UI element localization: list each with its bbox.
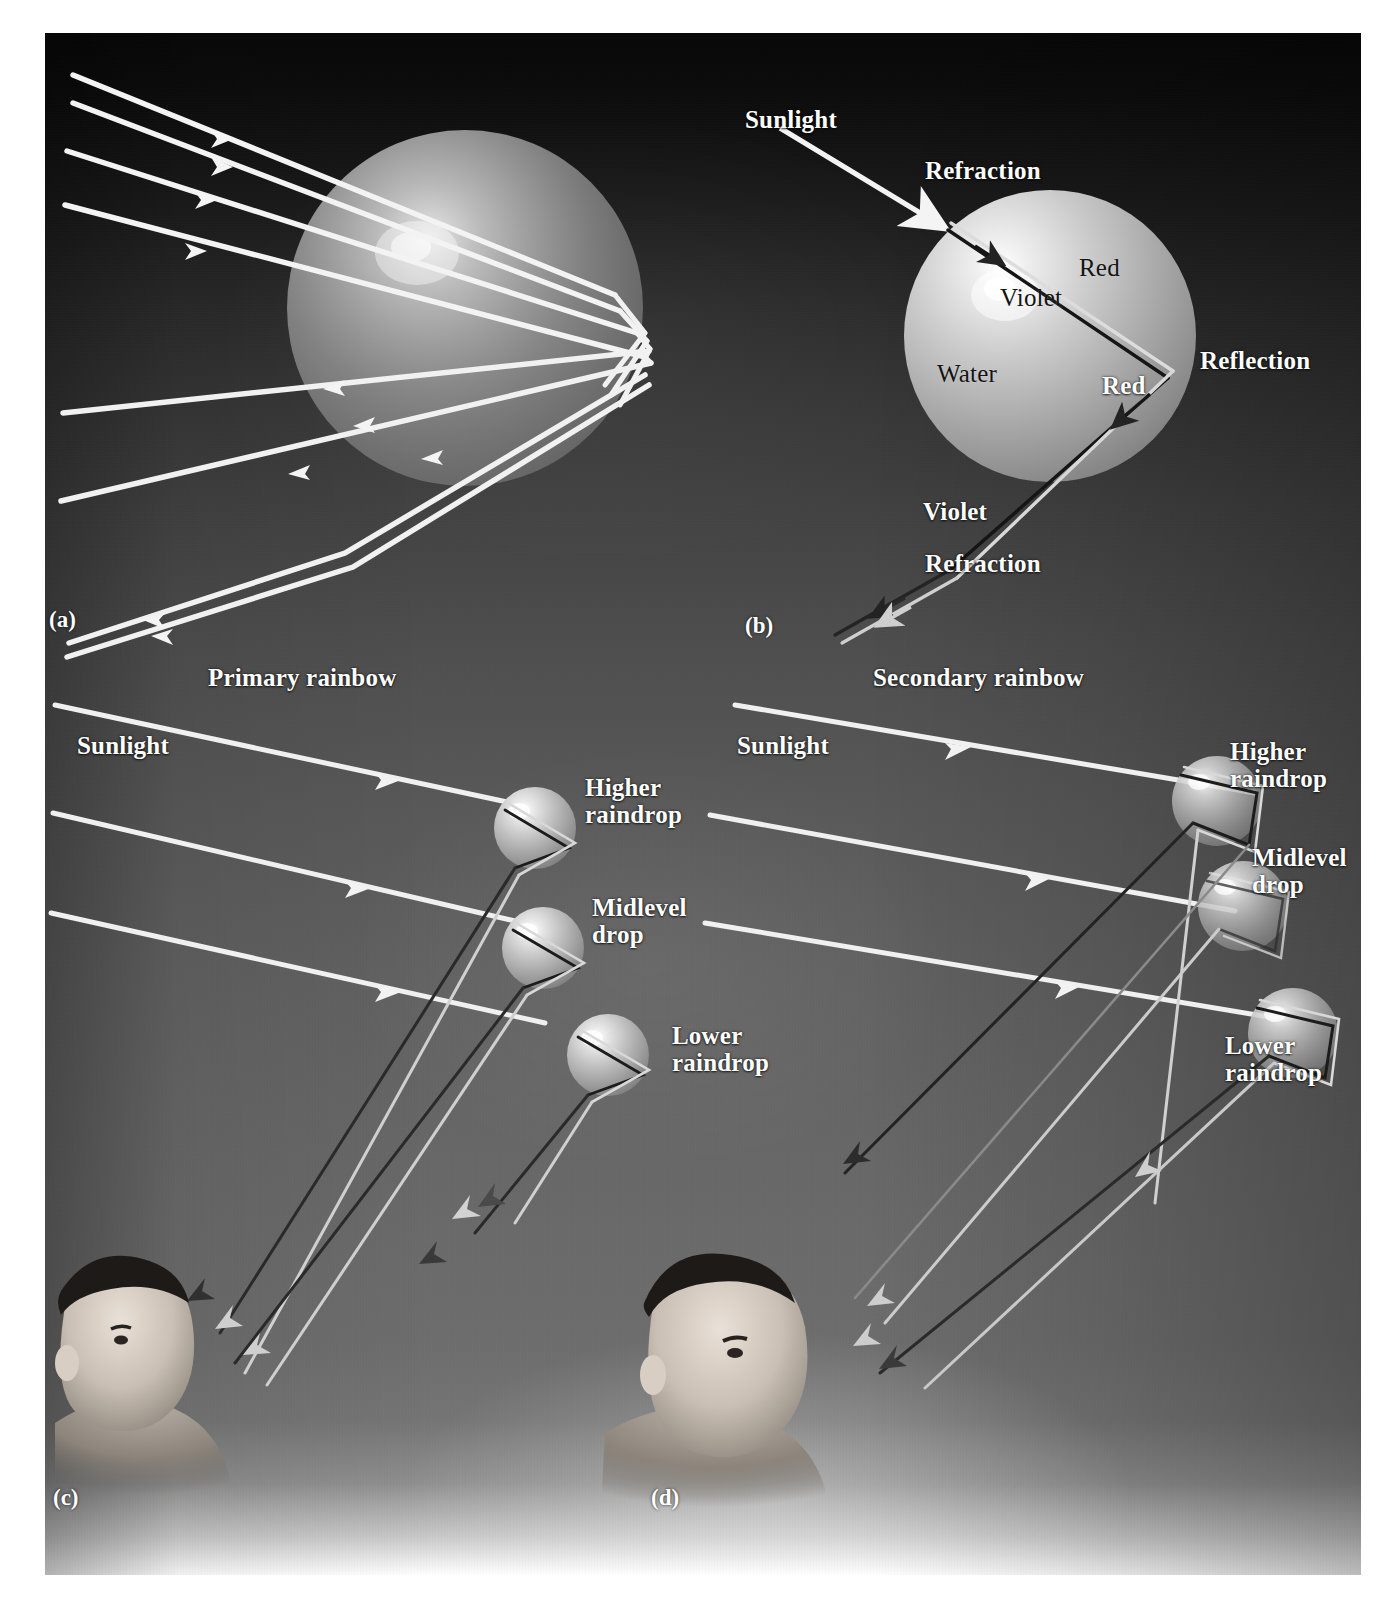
panel-d-sunlight-beams — [705, 705, 1275, 1018]
panel-b-specular-core — [984, 277, 1016, 301]
panel-c-id: (c) — [53, 1485, 79, 1511]
panel-a-artwork — [61, 75, 651, 657]
panel-c-raindrops — [494, 787, 649, 1096]
panel-d-id: (d) — [651, 1485, 679, 1511]
panel-c-observer-eye — [114, 1336, 128, 1345]
panel-d-observer-ear — [640, 1355, 666, 1395]
figure-plate: (a) Sunlight Refraction Red Violet Water… — [45, 33, 1361, 1575]
panel-d-observer-eye — [727, 1348, 743, 1358]
diagram-artwork — [45, 33, 1361, 1575]
panel-d-observer — [601, 1253, 829, 1507]
panel-a-id: (a) — [49, 607, 76, 633]
panel-b-id: (b) — [745, 613, 773, 639]
figure-root: (a) Sunlight Refraction Red Violet Water… — [0, 0, 1396, 1602]
panel-b-exit-rays — [835, 570, 957, 643]
panel-c-ray-arrowheads — [187, 1183, 506, 1355]
panel-c-observer-ear — [55, 1345, 79, 1381]
panel-c-observer — [55, 1256, 233, 1495]
panel-b-water-sphere — [904, 190, 1196, 482]
panel-d-artwork — [601, 705, 1339, 1507]
panel-b-artwork — [780, 128, 1196, 643]
panel-c-artwork — [51, 705, 649, 1495]
panel-c-sunlight-beams — [51, 705, 545, 1023]
panel-b-sunlight-ray — [780, 128, 945, 228]
